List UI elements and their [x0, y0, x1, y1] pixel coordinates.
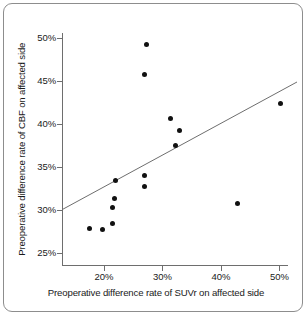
x-axis-tick-label: 20% [84, 272, 124, 282]
x-axis-line [62, 265, 288, 266]
scatter-plot: 25%30%35%40%45%50% 20%30%40%50% Preopera… [0, 0, 308, 317]
y-axis-tick [57, 167, 62, 168]
data-point [142, 184, 147, 189]
data-point [177, 128, 182, 133]
data-point [100, 227, 105, 232]
data-point [112, 196, 117, 201]
data-point [142, 173, 147, 178]
data-point [168, 116, 173, 121]
data-point [110, 205, 115, 210]
data-point [235, 201, 240, 206]
data-point [278, 101, 283, 106]
data-point [87, 226, 92, 231]
data-point [142, 72, 147, 77]
data-point [110, 221, 115, 226]
trendline [63, 82, 297, 209]
x-axis-tick-label: 50% [259, 272, 299, 282]
x-axis-tick-label: 40% [201, 272, 241, 282]
data-point [144, 42, 149, 47]
data-point [173, 143, 178, 148]
y-axis-tick [57, 210, 62, 211]
trendline-layer [0, 0, 308, 317]
y-axis-tick [57, 124, 62, 125]
x-axis-tick-label: 30% [142, 272, 182, 282]
y-axis-tick [57, 81, 62, 82]
y-axis-title: Preoperative difference rate of CBF on a… [17, 33, 28, 265]
y-axis-tick [57, 253, 62, 254]
y-axis-line [62, 33, 63, 266]
x-axis-title: Preoperative difference rate of SUVr on … [20, 288, 292, 299]
data-point [113, 178, 118, 183]
y-axis-tick [57, 38, 62, 39]
